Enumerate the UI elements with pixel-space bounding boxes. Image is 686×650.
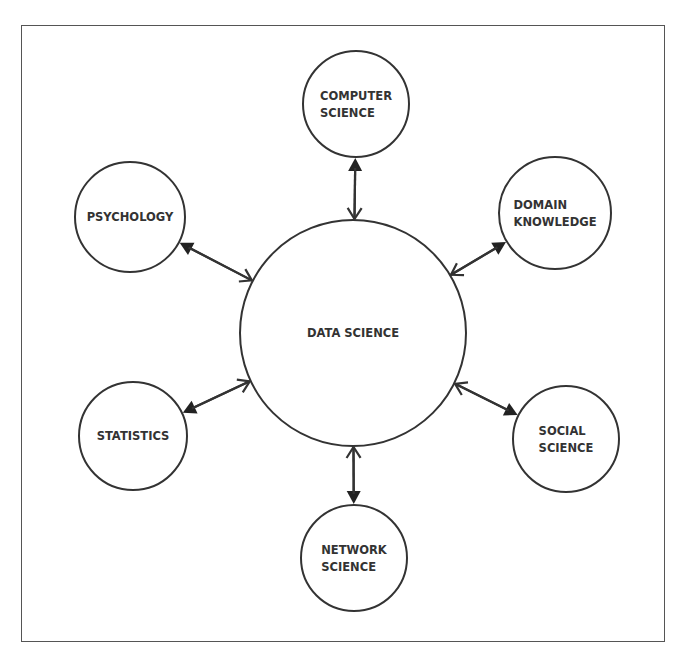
edge-shaft [455, 384, 509, 411]
edge-psychology [180, 243, 252, 282]
edge-computer-science [348, 158, 362, 219]
node-label-social-science: SOCIAL [539, 424, 587, 438]
data-science-diagram: DATA SCIENCECOMPUTERSCIENCEDOMAINKNOWLED… [0, 0, 686, 650]
node-statistics: STATISTICS [79, 382, 187, 490]
edge-statistics [183, 380, 250, 414]
node-computer-science: COMPUTERSCIENCE [303, 51, 409, 157]
edge-shaft [451, 247, 497, 275]
node-data-science: DATA SCIENCE [240, 220, 466, 446]
circle-computer-science [303, 51, 409, 157]
edge-shaft [189, 247, 252, 280]
node-network-science: NETWORKSCIENCE [301, 505, 407, 611]
node-label-network-science: NETWORK [321, 543, 388, 557]
node-label-domain-knowledge: KNOWLEDGE [513, 215, 596, 229]
edge-social-science [455, 382, 518, 415]
node-label-computer-science: SCIENCE [320, 106, 375, 120]
node-social-science: SOCIALSCIENCE [513, 386, 619, 492]
circle-social-science [513, 386, 619, 492]
node-label-psychology: PSYCHOLOGY [87, 210, 174, 224]
edge-shaft [192, 381, 250, 408]
edge-network-science [347, 447, 361, 504]
edge-domain-knowledge [451, 242, 506, 275]
node-label-domain-knowledge: DOMAIN [513, 198, 567, 212]
node-label-computer-science: COMPUTER [320, 89, 392, 103]
node-label-network-science: SCIENCE [321, 560, 376, 574]
edge-shaft [354, 168, 355, 219]
page: DATA SCIENCECOMPUTERSCIENCEDOMAINKNOWLED… [0, 0, 686, 650]
circle-network-science [301, 505, 407, 611]
node-domain-knowledge: DOMAINKNOWLEDGE [499, 157, 611, 269]
node-label-social-science: SCIENCE [539, 441, 594, 455]
circle-domain-knowledge [499, 157, 611, 269]
nodes-layer: DATA SCIENCECOMPUTERSCIENCEDOMAINKNOWLED… [75, 51, 619, 611]
node-label-data-science: DATA SCIENCE [307, 326, 399, 340]
node-label-statistics: STATISTICS [97, 429, 170, 443]
node-psychology: PSYCHOLOGY [75, 162, 185, 272]
